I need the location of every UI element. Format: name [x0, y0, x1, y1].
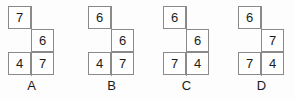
figure-d-label: D	[238, 78, 285, 93]
figure-d-grid: 6 7 7 4	[238, 6, 285, 76]
figure-d-cell-bottom-left: 7	[238, 52, 261, 75]
figure-a-cell-top-left: 7	[8, 6, 31, 29]
figure-a: 7 6 4 7 A	[8, 6, 56, 98]
figure-b-grid: 6 6 4 7	[88, 6, 135, 76]
figure-a-grid: 7 6 4 7	[8, 6, 55, 76]
figure-b-cell-top-left: 6	[88, 6, 111, 29]
figure-b-cell-bottom-right: 7	[111, 52, 134, 75]
figure-b-label: B	[88, 78, 135, 93]
figure-c: 6 6 7 4 C	[163, 6, 211, 98]
figure-d-cell-bottom-right: 4	[261, 52, 284, 75]
figure-a-cell-middle-right: 6	[31, 29, 54, 52]
figure-a-label: A	[8, 78, 55, 93]
figure-a-cell-bottom-right: 7	[31, 52, 54, 75]
figure-c-cell-bottom-left: 7	[163, 52, 186, 75]
figure-a-cell-bottom-left: 4	[8, 52, 31, 75]
figure-c-cell-top-left: 6	[163, 6, 186, 29]
figure-d: 6 7 7 4 D	[238, 6, 286, 98]
figure-comparison-panel: 7 6 4 7 A 6 6 4 7 B 6 6 7 4 C 6 7	[0, 0, 295, 100]
figure-b-cell-middle-right: 6	[111, 29, 134, 52]
figure-d-cell-top-left: 6	[238, 6, 261, 29]
figure-c-label: C	[163, 78, 210, 93]
figure-b-cell-bottom-left: 4	[88, 52, 111, 75]
figure-c-cell-bottom-right: 4	[186, 52, 209, 75]
figure-b: 6 6 4 7 B	[88, 6, 136, 98]
figure-d-cell-middle-right: 7	[261, 29, 284, 52]
figure-c-cell-middle-right: 6	[186, 29, 209, 52]
figure-c-grid: 6 6 7 4	[163, 6, 210, 76]
